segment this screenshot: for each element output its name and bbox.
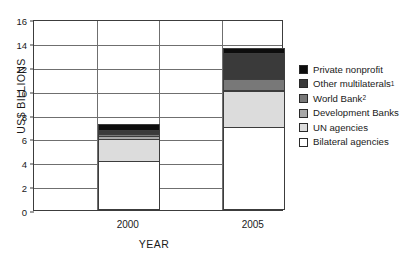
legend-item-label: UN agencies [313,123,368,133]
bar-segment-bilateral-agencies[interactable] [224,128,284,209]
bar-segment-un-agencies[interactable] [99,140,159,162]
bar-segment-private-nonprofit[interactable] [224,49,284,54]
y-axis-tick-mark [30,44,34,45]
y-axis-tick-mark [30,116,34,117]
y-axis-tick-mark [30,140,34,141]
bar-segment-bilateral-agencies[interactable] [99,162,159,209]
chart-legend: Private nonprofitOther multilaterals1Wor… [299,62,399,150]
plot-area: 024681012141620002005 [33,20,283,211]
legend-item-label: World Bank [313,94,362,104]
legend-item[interactable]: Bilateral agencies [299,135,399,150]
legend-swatch-icon [299,65,308,74]
legend-swatch-icon [299,94,308,103]
legend-swatch-icon [299,123,308,132]
y-axis-tick-mark [30,21,34,22]
bar-2005[interactable] [223,48,285,210]
legend-item-label: Development Banks [313,108,399,118]
legend-swatch-icon [299,109,308,118]
legend-footnote-marker: 2 [362,95,366,102]
legend-item[interactable]: World Bank2 [299,91,399,106]
bar-segment-development-banks[interactable] [99,137,159,140]
gridline [34,45,282,46]
legend-item-label: Bilateral agencies [313,137,389,147]
bar-segment-private-nonprofit[interactable] [99,125,159,130]
legend-item[interactable]: Other multilaterals1 [299,77,399,92]
legend-swatch-icon [299,138,308,147]
bar-segment-other-multilaterals[interactable] [224,54,284,80]
bar-segment-un-agencies[interactable] [224,92,284,128]
bar-segment-world-bank[interactable] [224,80,284,91]
bar-segment-world-bank[interactable] [99,135,159,137]
legend-item[interactable]: Private nonprofit [299,62,399,77]
x-axis-tick-label: 2005 [242,219,264,230]
legend-item[interactable]: Development Banks [299,106,399,121]
y-axis-tick-mark [30,164,34,165]
legend-item-label: Private nonprofit [313,65,383,75]
x-axis-title: YEAR [24,238,284,250]
chart-container: US$ BILLIONS YEAR 024681012141620002005 … [0,0,411,261]
y-axis-tick-mark [30,212,34,213]
legend-footnote-marker: 1 [391,81,395,88]
legend-item[interactable]: UN agencies [299,120,399,135]
bar-segment-development-banks[interactable] [224,91,284,92]
x-axis-tick-label: 2000 [117,219,139,230]
bar-segment-other-multilaterals[interactable] [99,131,159,135]
legend-item-label: Other multilaterals [313,79,391,89]
legend-swatch-icon [299,79,308,88]
y-axis-tick-mark [30,92,34,93]
y-axis-tick-mark [30,188,34,189]
y-axis-tick-mark [30,68,34,69]
bar-2000[interactable] [98,124,160,210]
